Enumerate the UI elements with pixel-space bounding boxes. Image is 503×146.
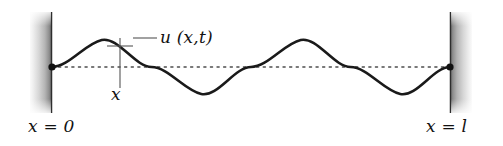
left-boundary-label: x = 0 bbox=[28, 118, 74, 135]
right-endpoint-dot bbox=[446, 63, 453, 70]
right-wall bbox=[450, 12, 472, 113]
left-wall bbox=[30, 12, 52, 113]
right-boundary-label: x = l bbox=[426, 118, 467, 135]
position-label: x bbox=[111, 86, 121, 103]
displacement-label: u (x,t) bbox=[160, 29, 213, 46]
left-endpoint-dot bbox=[48, 63, 55, 70]
vibrating-string-figure: u (x,t) x x = 0 x = l bbox=[0, 0, 503, 146]
